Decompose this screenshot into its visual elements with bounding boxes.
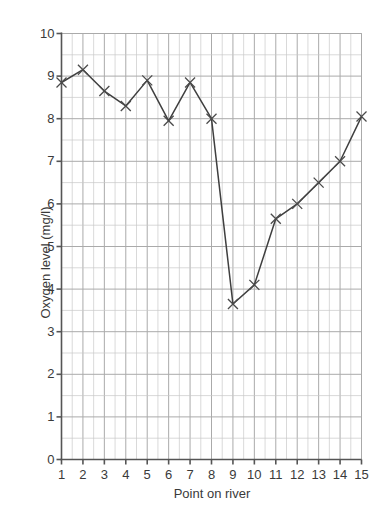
y-axis-tick-label: 2 (31, 366, 55, 381)
x-axis-tick-label: 5 (135, 467, 159, 482)
x-axis-tick-label: 2 (71, 467, 95, 482)
grid-lines (62, 34, 362, 460)
y-axis-tick-label: 5 (31, 239, 55, 254)
x-axis-tick-label: 13 (307, 467, 331, 482)
x-axis-title: Point on river (62, 486, 362, 501)
x-axis-tick-label: 4 (114, 467, 138, 482)
plot-area (0, 0, 387, 525)
y-axis-tick-label: 1 (31, 409, 55, 424)
y-axis-tick-label: 3 (31, 324, 55, 339)
y-axis-tick-label: 0 (31, 452, 55, 467)
y-axis-tick-label: 9 (31, 68, 55, 83)
oxygen-level-line-chart: Oxygen level (mg/l) 012345678910 1234567… (0, 0, 387, 525)
x-axis-tick-label: 3 (92, 467, 116, 482)
y-axis-tick-label: 10 (31, 26, 55, 41)
x-axis-tick-label: 1 (50, 467, 74, 482)
x-axis-tick-label: 8 (200, 467, 224, 482)
x-axis-tick-label: 11 (264, 467, 288, 482)
y-axis-tick-label: 7 (31, 153, 55, 168)
x-axis-tick-label: 10 (242, 467, 266, 482)
x-axis-tick-label: 7 (178, 467, 202, 482)
x-axis-tick-label: 9 (221, 467, 245, 482)
y-axis-tick-label: 8 (31, 111, 55, 126)
x-axis-tick-label: 6 (157, 467, 181, 482)
y-axis-tick-label: 4 (31, 281, 55, 296)
x-axis-tick-label: 12 (285, 467, 309, 482)
x-axis-tick-label: 15 (350, 467, 374, 482)
y-axis-tick-label: 6 (31, 196, 55, 211)
x-axis-tick-label: 14 (328, 467, 352, 482)
